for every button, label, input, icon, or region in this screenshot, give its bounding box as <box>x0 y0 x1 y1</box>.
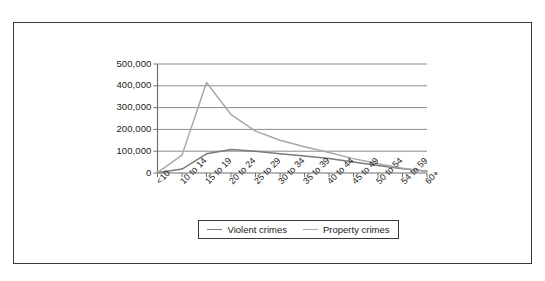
y-axis-tick-label: 300,000 <box>116 101 151 112</box>
legend-entry-violent-crimes: Violent crimes <box>207 224 287 235</box>
chart-legend: Violent crimes Property crimes <box>198 220 399 239</box>
y-axis-tick-label: 100,000 <box>116 145 151 156</box>
line-chart: 0100,000200,000300,000400,000500,000 <10… <box>0 0 545 281</box>
legend-line-icon-violent-crimes <box>207 229 222 230</box>
legend-label-violent-crimes: Violent crimes <box>227 224 287 235</box>
y-axis-tick-label: 400,000 <box>116 79 151 90</box>
gridlines <box>158 64 428 173</box>
y-axis-tick-label: 200,000 <box>116 123 151 134</box>
legend-line-icon-property-crimes <box>303 229 318 230</box>
y-axis-tick-label: 500,000 <box>116 58 151 69</box>
legend-label-property-crimes: Property crimes <box>323 224 390 235</box>
y-axis-tick-label: 0 <box>146 167 151 178</box>
legend-entry-property-crimes: Property crimes <box>303 224 390 235</box>
